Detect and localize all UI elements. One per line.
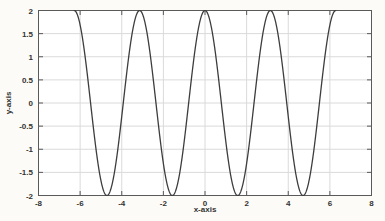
y-tick-label: -2 <box>0 191 33 200</box>
y-tick-label: -1.5 <box>0 168 33 177</box>
y-tick-label: -1 <box>0 145 33 154</box>
x-axis-title: x-axis <box>38 205 372 214</box>
y-tick-label: 1 <box>0 52 33 61</box>
y-tick-label: -0.5 <box>0 122 33 131</box>
y-axis-title: y-axis <box>4 92 13 115</box>
matlab-figure: -8-6-4-202468-2-1.5-1-0.500.511.52 x-axi… <box>0 0 385 221</box>
y-tick-label: 1.5 <box>0 29 33 38</box>
y-tick-label: 2 <box>0 6 33 15</box>
plot-canvas <box>38 10 372 196</box>
y-tick-label: 0.5 <box>0 75 33 84</box>
